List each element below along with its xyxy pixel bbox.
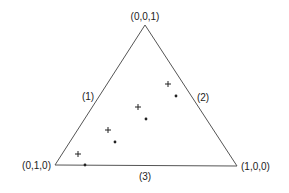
vertex-label-right: (1,0,0) xyxy=(241,161,270,172)
edge-label-3: (3) xyxy=(139,171,151,182)
plus-marker xyxy=(135,104,141,110)
edge-label-2: (2) xyxy=(197,92,209,103)
dot-marker xyxy=(145,118,148,121)
plus-marker xyxy=(75,151,81,157)
vertex-label-top: (0,0,1) xyxy=(131,11,160,22)
plus-marker xyxy=(105,127,111,133)
plus-marker xyxy=(165,81,171,87)
ternary-diagram: (0,0,1) (0,1,0) (1,0,0) (1) (2) (3) xyxy=(0,0,289,193)
dot-markers xyxy=(84,95,178,167)
edge-label-1: (1) xyxy=(82,91,94,102)
dot-marker xyxy=(175,95,178,98)
dot-marker xyxy=(84,164,87,167)
dot-marker xyxy=(114,141,117,144)
vertex-label-left: (0,1,0) xyxy=(22,160,51,171)
